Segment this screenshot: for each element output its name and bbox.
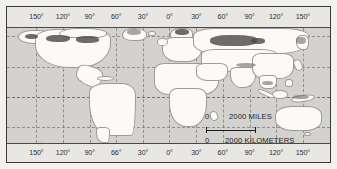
lon-label-bottom-0: 150° <box>29 148 43 157</box>
lon-label-bottom-8: 90° <box>244 148 254 157</box>
lon-label-top-1: 120° <box>56 12 70 21</box>
scale-miles-zero-label: 0 <box>205 112 209 121</box>
lon-label-bottom-2: 90° <box>85 148 95 157</box>
meridian-30w <box>143 28 144 143</box>
lon-label-top-5: 0° <box>166 12 172 21</box>
map-frame: 150° 120° 90° 60° 30° 0° 30° 60° 90° 120… <box>6 6 331 163</box>
lon-label-bottom-10: 150° <box>296 148 310 157</box>
lon-label-bottom-7: 60° <box>218 148 228 157</box>
top-longitude-axis: 150° 120° 90° 60° 30° 0° 30° 60° 90° 120… <box>7 7 330 27</box>
shade-region-siberia-east <box>251 38 266 44</box>
shade-region-greenland <box>127 29 142 35</box>
lon-label-bottom-4: 30° <box>138 148 148 157</box>
land-iceland <box>148 31 156 36</box>
shade-region-canada-east <box>76 36 99 43</box>
lon-label-top-7: 60° <box>218 12 228 21</box>
lon-label-bottom-1: 120° <box>56 148 70 157</box>
scale-bar-rule <box>206 127 256 133</box>
lon-label-bottom-6: 30° <box>191 148 201 157</box>
scale-km-zero-label: 0 <box>205 136 209 144</box>
lon-label-top-10: 150° <box>296 12 310 21</box>
lon-label-top-2: 90° <box>85 12 95 21</box>
land-africa-south <box>169 88 208 127</box>
lon-label-top-9: 120° <box>269 12 283 21</box>
land-sumatra <box>257 88 275 99</box>
land-caribbean-islands <box>97 76 113 81</box>
bottom-longitude-axis: 150° 120° 90° 66° 30° 0° 30° 60° 90° 120… <box>7 142 330 162</box>
scale-miles-label: 2000 MILES <box>229 112 272 121</box>
shade-region-canada-west <box>46 35 70 42</box>
land-south-america-cone <box>96 127 111 143</box>
scale-bar-tick-right <box>255 127 256 133</box>
land-japan <box>292 58 304 72</box>
scanned-map-page: 150° 120° 90° 60° 30° 0° 30° 60° 90° 120… <box>0 0 337 169</box>
lon-label-top-3: 60° <box>111 12 121 21</box>
lon-label-top-4: 30° <box>138 12 148 21</box>
lon-label-bottom-3: 66° <box>111 148 121 157</box>
lon-label-bottom-5: 0° <box>166 148 172 157</box>
map-field: 0 2000 MILES 0 2000 KILOMETERS <box>7 27 330 144</box>
scale-bar-tick-left <box>206 127 207 133</box>
shade-region-himalaya <box>236 63 255 68</box>
scale-km-label: 2000 KILOMETERS <box>225 136 294 144</box>
shade-region-kamchatka <box>296 37 306 44</box>
land-philippines <box>285 79 293 87</box>
scale-bar-group: 0 2000 MILES 0 2000 KILOMETERS <box>203 108 315 144</box>
lon-label-bottom-9: 120° <box>269 148 283 157</box>
land-british-isles <box>157 38 167 46</box>
land-middle-east <box>196 63 228 81</box>
lon-label-top-6: 30° <box>191 12 201 21</box>
scale-bar-line <box>206 130 256 131</box>
lon-label-top-0: 150° <box>29 12 43 21</box>
lon-label-top-8: 90° <box>244 12 254 21</box>
land-borneo <box>272 90 288 99</box>
shade-region-alaska <box>25 34 38 39</box>
